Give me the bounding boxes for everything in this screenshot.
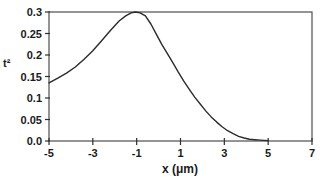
x-tick-label: -3	[88, 147, 98, 159]
y-tick-label: 0.2	[27, 49, 42, 61]
plot-svg: -5-3-113570.00.050.10.150.20.250.3	[0, 0, 327, 188]
y-tick-label: 0.1	[27, 92, 42, 104]
y-tick-label: 0.3	[27, 6, 42, 18]
x-axis-label: x (μm)	[162, 162, 198, 176]
y-tick-label: 0.25	[21, 28, 42, 40]
y-axis-label: t²	[3, 57, 10, 69]
line-series	[49, 12, 268, 141]
y-tick-label: 0.0	[27, 135, 42, 147]
y-tick-label: 0.05	[21, 114, 42, 126]
line-chart-figure: -5-3-113570.00.050.10.150.20.250.3 t² x …	[0, 0, 327, 188]
x-tick-label: 1	[177, 147, 183, 159]
x-tick-label: 7	[309, 147, 315, 159]
x-tick-label: 5	[265, 147, 271, 159]
y-tick-label: 0.15	[21, 71, 42, 83]
x-tick-label: -1	[132, 147, 142, 159]
x-tick-label: -5	[44, 147, 54, 159]
x-tick-label: 3	[221, 147, 227, 159]
